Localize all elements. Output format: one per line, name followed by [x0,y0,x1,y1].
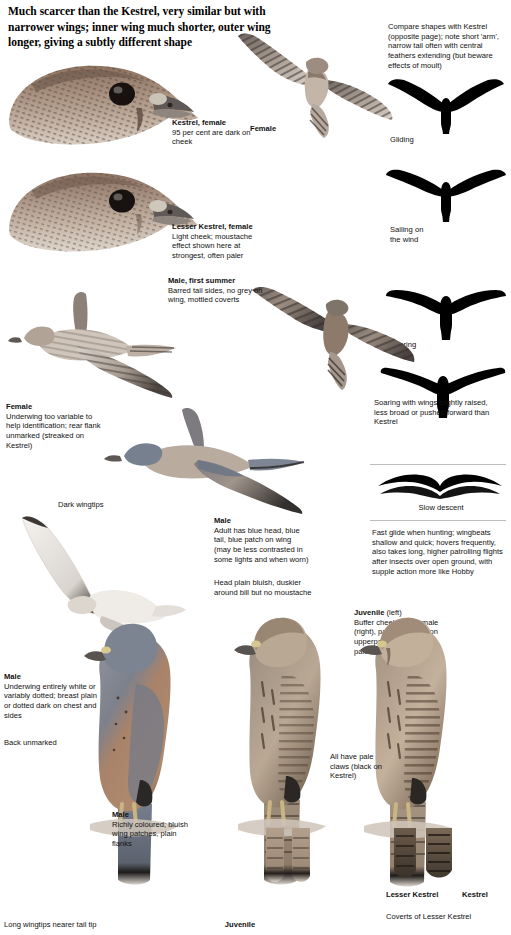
caption-compare-shapes: Compare shapes with Kestrel (opposite pa… [388,22,506,71]
caption-coverts: Coverts of Lesser Kestrel [386,912,508,922]
caption-title: Kestrel, female [172,118,226,127]
divider-rule-2 [370,520,506,521]
caption-body: Richly coloured; bluish wing patches, pl… [112,820,188,848]
caption-sailing: Sailing onthe wind [390,225,460,244]
caption-slow-descent: Slow descent [376,503,506,513]
caption-pale-claws: All have pale claws (black on Kestrel) [330,752,388,781]
caption-title: Male [112,810,129,819]
caption-fast-glide: Fast glide when hunting; wingbeats shall… [372,528,506,577]
caption-dark-wingtips: Dark wingtips [58,500,138,510]
illustration-tail-comparison [390,826,456,888]
caption-title: Male, first summer [168,276,235,285]
illustration-male-first-summer [250,276,420,396]
label-lesser-kestrel-tail: Lesser Kestrel [386,890,452,900]
caption-body: Light cheek; moustache effect shown here… [172,232,252,260]
illustration-female-flight-left [4,290,184,400]
caption-male-flight: Male Adult has blue head, blue tail, blu… [214,516,310,565]
caption-lesser-kestrel-female-head: Lesser Kestrel, female Light cheek; mous… [172,222,272,261]
caption-title: Male [4,672,21,681]
caption-body: Adult has blue head, blue tail, blue pat… [214,526,309,564]
caption-gliding: Gliding [390,135,460,145]
caption-head-plain: Head plain bluish, duskier around bill b… [214,578,318,597]
caption-female-flight-top: Female [250,124,310,134]
caption-female-flight-left: Female Underwing too variable to help id… [6,402,102,451]
caption-long-wingtips: Long wingtips nearer tail tip [4,920,154,930]
caption-body: Underwing too variable to help identific… [6,412,101,450]
label-kestrel-tail: Kestrel [462,890,508,900]
caption-title: Lesser Kestrel, female [172,222,253,231]
silhouette-slow-descent [376,472,506,500]
caption-male-perched: Male Richly coloured; bluish wing patche… [112,810,192,849]
divider-rule-1 [370,464,506,465]
silhouette-sailing [386,168,506,226]
silhouette-gliding [386,78,506,136]
illustration-tail-pair-center [264,826,314,888]
plate-page: Much scarcer than the Kestrel, very simi… [0,0,511,935]
caption-soaring-raised: Soaring with wings slightly raised, less… [374,398,494,427]
caption-title: Male [214,516,231,525]
caption-title: Female [6,402,32,411]
caption-juvenile-perched: Juvenile [200,920,280,930]
illustration-male-perched [60,612,200,902]
